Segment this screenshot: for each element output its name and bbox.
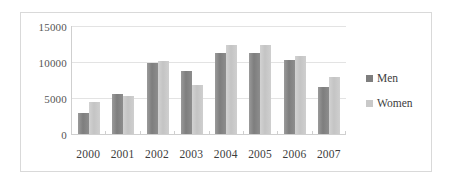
x-axis-labels: 20002001200220032004200520062007 — [71, 148, 346, 160]
x-axis-label-2001: 2001 — [105, 148, 139, 160]
bar-men-2000 — [78, 113, 89, 134]
bar-group-2005 — [243, 26, 277, 134]
bar-group-2003 — [175, 26, 209, 134]
bar-women-2007 — [329, 77, 340, 134]
bar-women-2004 — [226, 45, 237, 134]
x-axis-label-2003: 2003 — [174, 148, 208, 160]
x-axis-label-2005: 2005 — [243, 148, 277, 160]
legend-swatch-icon-men — [366, 75, 373, 82]
x-axis-label-2004: 2004 — [209, 148, 243, 160]
bar-men-2006 — [284, 60, 295, 134]
bar-group-2002 — [141, 26, 175, 134]
bar-women-2002 — [158, 61, 169, 134]
bar-men-2004 — [215, 53, 226, 134]
bar-women-2005 — [260, 45, 271, 134]
bar-group-2007 — [312, 26, 346, 134]
legend-item-men: Men — [366, 73, 412, 85]
bar-men-2003 — [181, 71, 192, 134]
bar-women-2000 — [89, 102, 100, 134]
x-axis-label-2006: 2006 — [277, 148, 311, 160]
y-axis-tick-label-10000: 10000 — [7, 58, 67, 69]
bar-group-2000 — [72, 26, 106, 134]
x-axis-label-2000: 2000 — [71, 148, 105, 160]
legend-label-women: Women — [377, 98, 412, 110]
plot-area — [71, 26, 346, 135]
bar-women-2003 — [192, 85, 203, 134]
chart-legend: Men Women — [366, 73, 412, 109]
bar-women-2006 — [295, 56, 306, 134]
x-axis-label-2002: 2002 — [140, 148, 174, 160]
bar-men-2001 — [112, 94, 123, 134]
y-axis-tick-label-5000: 5000 — [7, 94, 67, 105]
bar-men-2005 — [249, 53, 260, 134]
bar-men-2002 — [147, 63, 158, 134]
bar-group-2004 — [209, 26, 243, 134]
bar-groups — [72, 26, 346, 134]
bar-group-2006 — [278, 26, 312, 134]
x-axis-label-2007: 2007 — [312, 148, 346, 160]
legend-swatch-icon-women — [366, 100, 373, 107]
bar-group-2001 — [106, 26, 140, 134]
y-axis-tick-label-0: 0 — [7, 130, 67, 141]
bar-men-2007 — [318, 87, 329, 134]
legend-item-women: Women — [366, 98, 412, 110]
legend-label-men: Men — [377, 73, 398, 85]
y-axis-tick-label-15000: 15000 — [7, 22, 67, 33]
chart-frame: 15000 10000 5000 0 200020012002200320042… — [20, 12, 432, 172]
bar-women-2001 — [123, 96, 134, 135]
